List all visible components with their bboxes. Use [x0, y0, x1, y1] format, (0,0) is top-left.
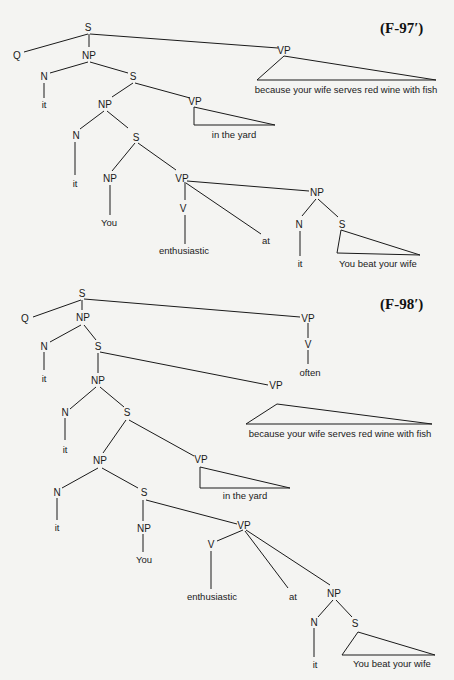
leaf-it: it — [298, 258, 303, 269]
leaf-it: it — [73, 178, 78, 189]
node-s: S — [124, 407, 131, 418]
node-np: NP — [98, 99, 112, 110]
node-n: N — [40, 341, 47, 352]
syntax-tree-diagrams: (F-97′) — [0, 0, 454, 680]
leaf-you-beat-your-wife: You beat your wife — [339, 258, 417, 269]
tree-f97-edges — [24, 34, 436, 256]
node-np: NP — [93, 455, 107, 466]
leaf-you: You — [136, 554, 152, 565]
node-v: V — [180, 203, 187, 214]
node-s: S — [339, 219, 346, 230]
node-vp: VP — [301, 313, 315, 324]
tree-f98-edges — [33, 299, 435, 657]
leaf-because-clause: because your wife serves red wine with f… — [249, 428, 432, 439]
node-s: S — [133, 132, 140, 143]
node-np: NP — [137, 523, 151, 534]
node-vp: VP — [188, 96, 202, 107]
node-n: N — [61, 407, 68, 418]
node-n: N — [40, 71, 47, 82]
node-vp: VP — [237, 520, 251, 531]
node-vp: VP — [269, 380, 283, 391]
node-np: NP — [310, 187, 324, 198]
leaf-because-clause: because your wife serves red wine with f… — [255, 84, 438, 95]
node-np: NP — [76, 312, 90, 323]
tree-f98: (F-98′) — [21, 288, 435, 670]
tree-f97: (F-97′) — [13, 20, 437, 269]
figure-label-f97: (F-97′) — [380, 20, 423, 37]
node-n: N — [295, 219, 302, 230]
node-s: S — [95, 341, 102, 352]
node-s: S — [79, 288, 86, 299]
node-q: Q — [21, 313, 29, 324]
leaf-often: often — [299, 367, 320, 378]
node-vp: VP — [194, 454, 208, 465]
leaf-you: You — [101, 217, 117, 228]
node-vp: VP — [277, 45, 291, 56]
node-np: NP — [82, 50, 96, 61]
leaf-it: it — [313, 659, 318, 670]
leaf-at: at — [289, 591, 297, 602]
leaf-you-beat-your-wife: You beat your wife — [353, 658, 431, 669]
leaf-at: at — [262, 235, 270, 246]
leaf-it: it — [42, 99, 47, 110]
node-q: Q — [13, 50, 21, 61]
leaf-it: it — [55, 522, 60, 533]
node-n: N — [72, 130, 79, 141]
node-s: S — [85, 22, 92, 33]
node-vp: VP — [175, 173, 189, 184]
node-np: NP — [327, 588, 341, 599]
leaf-in-the-yard: in the yard — [212, 129, 256, 140]
leaf-in-the-yard: in the yard — [223, 490, 267, 501]
node-s: S — [352, 618, 359, 629]
figure-label-f98: (F-98′) — [380, 296, 423, 313]
leaf-enthusiastic: enthusiastic — [187, 591, 237, 602]
leaf-it: it — [42, 373, 47, 384]
node-n: N — [53, 487, 60, 498]
node-n: N — [310, 617, 317, 628]
node-v: V — [208, 539, 215, 550]
node-s: S — [130, 71, 137, 82]
leaf-it: it — [63, 444, 68, 455]
node-s: S — [141, 487, 148, 498]
node-v: V — [305, 339, 312, 350]
node-np: NP — [91, 375, 105, 386]
leaf-enthusiastic: enthusiastic — [159, 245, 209, 256]
node-np: NP — [103, 173, 117, 184]
